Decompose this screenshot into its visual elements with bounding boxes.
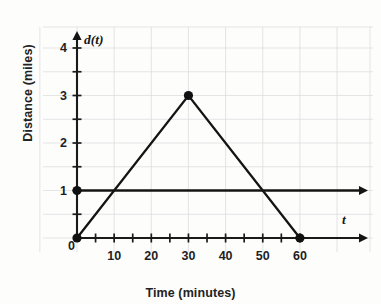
- y-tick-label-1: 1: [51, 184, 67, 198]
- y-tick-label-3: 3: [51, 89, 67, 103]
- x-tick-label-0: 0: [68, 239, 75, 253]
- y-tick-label-4: 4: [51, 41, 67, 55]
- x-axis-variable-label: t: [342, 212, 346, 228]
- y-axis-variable-label: d(t): [84, 32, 104, 48]
- y-tick-label-2: 2: [51, 136, 67, 150]
- x-tick-label-20: 20: [144, 249, 158, 263]
- data-point-constant-1-0: [72, 186, 81, 195]
- x-tick-label-60: 60: [293, 249, 307, 263]
- x-tick-label-40: 40: [219, 249, 233, 263]
- series-arrowhead-constant-1: [359, 186, 368, 195]
- x-tick-label-50: 50: [256, 249, 270, 263]
- y-axis-arrowhead: [72, 31, 81, 40]
- data-point-d(t)-2: [295, 233, 304, 242]
- x-tick-label-10: 10: [107, 249, 121, 263]
- chart-figure: Distance (miles) Time (minutes) 01020304…: [0, 0, 381, 304]
- x-tick-label-30: 30: [181, 249, 195, 263]
- x-axis-arrowhead: [359, 233, 368, 242]
- data-point-d(t)-1: [184, 91, 193, 100]
